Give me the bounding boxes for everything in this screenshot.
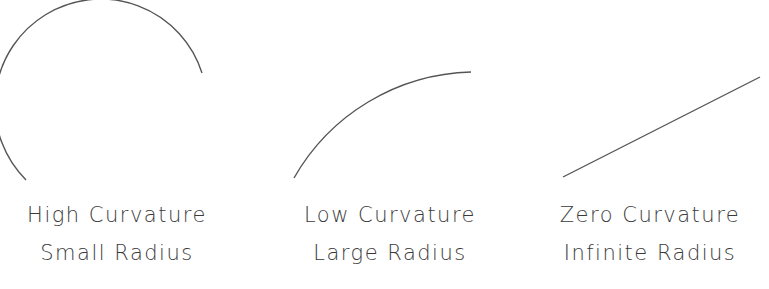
- caption-line-2: Large Radius: [270, 234, 510, 272]
- caption-line-2: Small Radius: [0, 234, 237, 272]
- caption-line-2: Infinite Radius: [530, 234, 769, 272]
- caption-line-1: Zero Curvature: [530, 196, 769, 234]
- high-curvature-arc: [0, 0, 202, 180]
- zero-curvature-line: [563, 77, 760, 177]
- low-curvature-caption: Low Curvature Large Radius: [270, 196, 510, 272]
- low-curvature-arc: [294, 72, 471, 178]
- high-curvature-caption: High Curvature Small Radius: [0, 196, 237, 272]
- caption-line-1: Low Curvature: [270, 196, 510, 234]
- caption-line-1: High Curvature: [0, 196, 237, 234]
- zero-curvature-caption: Zero Curvature Infinite Radius: [530, 196, 769, 272]
